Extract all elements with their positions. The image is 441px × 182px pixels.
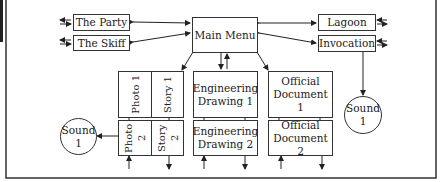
node-doc2: Official Document 2 (268, 120, 333, 156)
node-story1: Story 1 (151, 71, 184, 118)
sound-num: 1 (62, 137, 96, 150)
node-label: Photo 2 (122, 121, 148, 155)
node-label: The Skiff (78, 37, 126, 50)
node-eng2: Engineering Drawing 2 (193, 120, 258, 156)
drawing-label: Drawing 1 (193, 95, 259, 108)
node-sound-left: Sound 1 (60, 118, 97, 155)
node-sound-right: Sound 1 (344, 96, 382, 134)
eng-word: Engineering (193, 82, 259, 95)
node-story2: Story 2 (151, 120, 184, 156)
sound-num: 1 (346, 115, 380, 128)
node-label: Invocation (319, 37, 375, 50)
navigation-diagram: The Party The Skiff Main Menu Lagoon Inv… (0, 0, 441, 182)
node-the-party: The Party (73, 14, 130, 31)
sound-word: Sound (346, 102, 380, 115)
node-eng1: Engineering Drawing 1 (193, 71, 258, 118)
document-label: Document 1 (269, 88, 332, 114)
drawing-label: Drawing 2 (193, 138, 259, 151)
node-photo2: Photo 2 (118, 120, 152, 156)
node-doc1: Official Document 1 (268, 71, 333, 118)
node-the-skiff: The Skiff (73, 35, 130, 51)
node-label: The Party (76, 16, 127, 29)
official-word: Official (269, 119, 332, 132)
node-photo1: Photo 1 (118, 71, 152, 118)
node-label: Story 2 (155, 121, 181, 155)
node-label: Story 1 (161, 76, 174, 113)
node-lagoon: Lagoon (318, 14, 376, 31)
node-label: Photo 1 (129, 75, 142, 114)
node-label: Main Menu (195, 29, 256, 42)
node-label: Lagoon (327, 16, 366, 29)
node-main-menu: Main Menu (192, 17, 258, 53)
document-label: Document 2 (269, 132, 332, 158)
eng-word: Engineering (193, 125, 259, 138)
node-invocation: Invocation (318, 35, 376, 52)
sound-word: Sound (62, 124, 96, 137)
official-word: Official (269, 75, 332, 88)
